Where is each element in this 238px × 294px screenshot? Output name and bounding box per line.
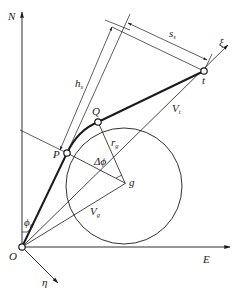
origin-label: O [9,250,17,262]
ss-base-line [112,27,204,71]
p-label: P [52,148,60,160]
east-label: E [202,253,210,265]
rg-label: rg [111,136,119,149]
xi-label: ξ [219,36,224,49]
q-label: Q [92,105,100,117]
vg-label: Vg [90,205,101,218]
ss-label: ss [169,27,176,40]
dphi-angle-mark [116,175,122,178]
ss-dim-line [128,23,207,60]
geometry-diagram: N E ξ η O P Q t g hs ss rg Vt Vg ϕ0 Δϕ [0,0,238,294]
point-q [95,119,101,125]
hs-label: hs [75,77,84,90]
north-label: N [7,10,16,22]
path-q-t [98,71,204,122]
vt-label: Vt [172,102,181,115]
eta-axis [22,247,58,283]
t-label: t [202,74,206,86]
arc-p-q [67,122,98,153]
point-origin [19,244,25,250]
phi0-label: ϕ0 [24,216,34,229]
radius-q-g [98,122,125,183]
g-label: g [129,176,135,188]
turn-circle [66,128,182,244]
eta-label: η [42,276,47,288]
dphi-label: Δϕ [93,155,106,167]
point-p [64,150,70,156]
